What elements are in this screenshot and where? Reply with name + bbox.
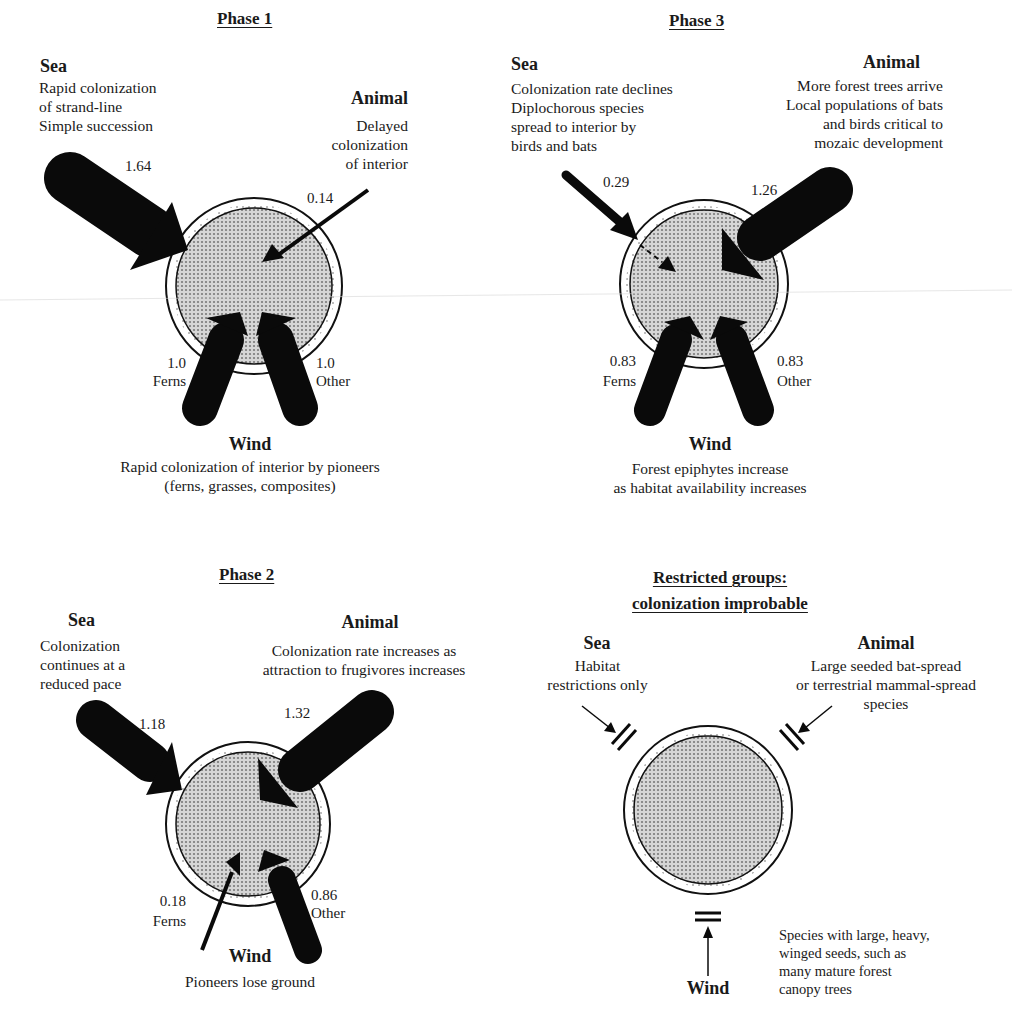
- phase3-animal-value: 1.26: [751, 181, 777, 199]
- phase1-animal-heading: Animal: [300, 88, 408, 109]
- restricted-animal-description: Large seeded bat-spread or terrestrial m…: [760, 656, 1012, 713]
- restricted-title-line2: colonization improbable: [600, 594, 840, 614]
- phase2-title: Phase 2: [219, 565, 274, 585]
- phase1-other-label: Other: [316, 372, 350, 390]
- restricted-island: [624, 726, 792, 894]
- phase3-sea-description: Colonization rate declines Diplochorous …: [511, 79, 673, 155]
- phase2-other-value: 0.86: [311, 886, 337, 904]
- phase2-wind-heading: Wind: [200, 946, 300, 967]
- restricted-sea-description: Habitat restrictions only: [520, 656, 675, 694]
- phase1-other-value: 1.0: [316, 354, 335, 372]
- restricted-wind-heading: Wind: [670, 978, 746, 999]
- phase2-animal-heading: Animal: [320, 612, 420, 633]
- restricted-sea-heading: Sea: [557, 633, 637, 654]
- phase2-wind-description: Pioneers lose ground: [130, 972, 370, 991]
- phase2-ferns-value: 0.18: [140, 892, 186, 910]
- restricted-wind-blocked-arrow-icon: [695, 913, 721, 976]
- phase2-sea-value: 1.18: [139, 715, 165, 733]
- phase2-animal-description: Colonization rate increases as attractio…: [230, 641, 498, 679]
- phase1-title: Phase 1: [217, 9, 272, 29]
- restricted-wind-description: Species with large, heavy, winged seeds,…: [779, 926, 930, 998]
- phase3-sea-value: 0.29: [603, 173, 629, 191]
- phase3-sea-heading: Sea: [511, 54, 538, 75]
- phase3-wind-description: Forest epiphytes increase as habitat ava…: [560, 459, 860, 497]
- phase2-sea-heading: Sea: [68, 610, 95, 631]
- phase3-animal-heading: Animal: [820, 52, 920, 73]
- phase1-sea-description: Rapid colonization of strand-line Simple…: [39, 78, 157, 135]
- restricted-sea-blocked-arrow-icon: [582, 706, 636, 750]
- phase3-ferns-value: 0.83: [590, 352, 636, 370]
- phase3-title: Phase 3: [669, 11, 724, 31]
- phase3-animal-description: More forest trees arrive Local populatio…: [700, 76, 943, 152]
- phase2-ferns-label: Ferns: [130, 912, 186, 930]
- phase3-other-value: 0.83: [777, 352, 803, 370]
- phase2-sea-description: Colonization continues at a reduced pace: [40, 636, 125, 693]
- phase1-island: [166, 198, 342, 374]
- phase1-ferns-value: 1.0: [140, 354, 186, 372]
- restricted-animal-heading: Animal: [836, 633, 936, 654]
- phase1-sea-heading: Sea: [40, 56, 67, 77]
- phase3-ferns-label: Ferns: [580, 372, 636, 390]
- phase3-wind-heading: Wind: [660, 434, 760, 455]
- phase1-animal-description: Delayed colonization of interior: [268, 116, 408, 173]
- scan-streak: [0, 290, 1012, 300]
- phase2-animal-value: 1.32: [284, 704, 310, 722]
- phase1-wind-description: Rapid colonization of interior by pionee…: [60, 457, 440, 495]
- phase3-other-label: Other: [777, 372, 811, 390]
- phase1-sea-value: 1.64: [125, 157, 151, 175]
- restricted-title-line1: Restricted groups:: [600, 568, 840, 588]
- phase1-ferns-label: Ferns: [130, 372, 186, 390]
- phase1-wind-heading: Wind: [200, 434, 300, 455]
- phase1-animal-value: 0.14: [307, 189, 333, 207]
- phase2-other-label: Other: [311, 904, 345, 922]
